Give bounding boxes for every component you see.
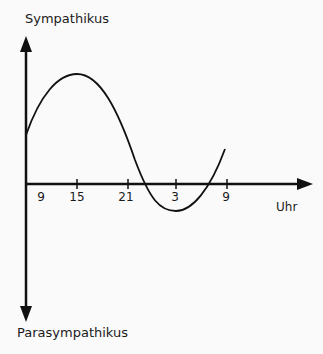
y-axis-top-label: Sympathikus [25, 11, 109, 26]
x-axis [26, 178, 313, 190]
tick-label: 21 [118, 190, 133, 204]
x-axis-unit-label: Uhr [276, 200, 297, 214]
y-axis [20, 36, 32, 322]
tick-label: 9 [37, 190, 45, 204]
arrow-up-icon [20, 36, 32, 52]
arrow-down-icon [20, 306, 32, 322]
tick-label: 9 [222, 190, 230, 204]
arrow-right-icon [297, 178, 313, 190]
tick-label: 15 [69, 190, 84, 204]
tick-label: 3 [171, 190, 179, 204]
diagram-canvas [0, 0, 323, 354]
y-axis-bottom-label: Parasympathikus [17, 325, 128, 340]
